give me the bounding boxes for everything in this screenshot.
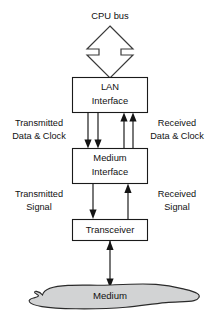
label-received-data-clock-line2: Data & Clock bbox=[150, 131, 204, 141]
node-lan-interface-line1: LAN bbox=[101, 81, 119, 92]
edge-transmitted-signal-arrowhead bbox=[89, 210, 96, 220]
edge-received-signal-arrowhead bbox=[124, 184, 131, 194]
label-transmitted-data-clock-line2: Data & Clock bbox=[12, 131, 66, 141]
label-received-signal-line1: Received bbox=[158, 189, 196, 199]
diagram-canvas: CPU bus LAN Interface Transmitted Data &… bbox=[0, 0, 216, 322]
node-medium-label: Medium bbox=[93, 290, 127, 301]
label-received-signal-line2: Signal bbox=[164, 202, 190, 212]
cpu-bus-double-arrow-icon bbox=[87, 26, 133, 78]
edge-received-clock-arrowhead-2 bbox=[129, 113, 136, 122]
node-lan-interface-line2: Interface bbox=[92, 95, 128, 106]
label-transmitted-data-clock-line1: Transmitted bbox=[15, 118, 63, 128]
edge-transmitted-clock-arrowhead-2 bbox=[94, 140, 101, 149]
edge-received-data-arrowhead-1 bbox=[120, 113, 127, 122]
label-transmitted-signal-line1: Transmitted bbox=[15, 189, 63, 199]
label-received-data-clock-line1: Received bbox=[158, 118, 196, 128]
node-transceiver-label: Transceiver bbox=[86, 224, 135, 235]
label-transmitted-signal-line2: Signal bbox=[26, 202, 52, 212]
edge-transmitted-data-arrowhead-1 bbox=[84, 140, 91, 149]
node-medium-interface-line2: Interface bbox=[92, 166, 128, 177]
edge-transceiver-medium-arrowhead-up bbox=[106, 241, 113, 251]
node-medium-interface-line1: Medium bbox=[93, 152, 127, 163]
protocol-stack-diagram: CPU bus LAN Interface Transmitted Data &… bbox=[0, 0, 216, 322]
cpu-bus-label: CPU bus bbox=[91, 10, 129, 21]
